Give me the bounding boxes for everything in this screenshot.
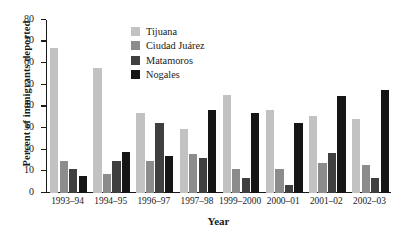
legend-swatch-icon	[131, 27, 140, 36]
y-tick-label: 80	[24, 12, 34, 25]
plot-area: 01020304050607080	[46, 20, 391, 193]
x-axis-label: 1993–94	[46, 196, 89, 206]
bar	[232, 169, 240, 193]
legend-item: Tijuana	[131, 24, 205, 38]
bar-group	[47, 20, 90, 193]
x-axis-title: Year	[46, 215, 391, 227]
bar-chart: Percent of immigrants deported 010203040…	[0, 0, 400, 238]
y-tick: 30	[41, 127, 46, 128]
legend-item: Ciudad Juárez	[131, 39, 205, 53]
bar	[112, 161, 120, 193]
x-axis-label: 2001–02	[305, 196, 348, 206]
y-tick-label: 20	[24, 142, 34, 155]
bar	[242, 178, 250, 193]
y-tick: 0	[41, 192, 46, 193]
bar	[381, 90, 389, 193]
legend-swatch-icon	[131, 56, 140, 65]
x-axis-label: 1996–97	[132, 196, 175, 206]
bar	[309, 116, 317, 193]
bar	[69, 169, 77, 193]
y-tick-label: 30	[24, 120, 34, 133]
y-tick: 20	[41, 149, 46, 150]
y-tick-label: 0	[29, 185, 34, 198]
bar-group	[90, 20, 133, 193]
bar	[294, 123, 302, 193]
bar	[103, 174, 111, 193]
y-tick: 60	[41, 62, 46, 63]
bars-layer	[47, 20, 391, 193]
bar	[318, 163, 326, 193]
bar	[328, 153, 336, 193]
legend-label: Ciudad Juárez	[146, 40, 205, 51]
bar	[285, 185, 293, 193]
y-tick: 70	[41, 40, 46, 41]
y-tick-label: 50	[24, 77, 34, 90]
bar	[122, 152, 130, 193]
bar-group	[220, 20, 263, 193]
bar	[189, 154, 197, 193]
y-tick: 80	[41, 19, 46, 20]
bar-group	[263, 20, 306, 193]
bar	[93, 68, 101, 193]
legend-item: Nogales	[131, 68, 205, 82]
legend-label: Tijuana	[146, 26, 177, 37]
bar	[79, 176, 87, 193]
bar	[337, 96, 345, 193]
bar	[371, 178, 379, 193]
chart-legend: TijuanaCiudad JuárezMatamorosNogales	[131, 24, 205, 82]
y-tick-label: 60	[24, 55, 34, 68]
bar	[136, 113, 144, 193]
bar	[208, 110, 216, 193]
bar	[362, 165, 370, 193]
legend-item: Matamoros	[131, 53, 205, 67]
legend-swatch-icon	[131, 70, 140, 79]
x-axis-label: 2000–01	[262, 196, 305, 206]
y-tick-label: 70	[24, 33, 34, 46]
bar-group	[349, 20, 392, 193]
bar-group	[306, 20, 349, 193]
y-tick-label: 10	[24, 163, 34, 176]
x-axis-label: 1997–98	[175, 196, 218, 206]
legend-swatch-icon	[131, 41, 140, 50]
y-tick: 40	[41, 105, 46, 106]
y-tick-label: 40	[24, 98, 34, 111]
bar	[155, 123, 163, 193]
bar	[146, 161, 154, 193]
x-axis-label: 1994–95	[89, 196, 132, 206]
legend-label: Nogales	[146, 69, 180, 80]
bar	[180, 129, 188, 193]
x-axis-label: 1999–2000	[219, 196, 262, 206]
x-axis-label: 2002–03	[348, 196, 391, 206]
y-axis-title: Percent of immigrants deported	[21, 6, 32, 182]
bar	[275, 169, 283, 193]
y-tick: 50	[41, 84, 46, 85]
bar	[199, 158, 207, 193]
bar	[165, 156, 173, 193]
bar	[251, 113, 259, 193]
bar	[223, 95, 231, 193]
bar	[352, 119, 360, 193]
bar	[50, 48, 58, 193]
bar	[266, 110, 274, 193]
y-tick: 10	[41, 170, 46, 171]
legend-label: Matamoros	[146, 55, 193, 66]
bar	[60, 161, 68, 193]
